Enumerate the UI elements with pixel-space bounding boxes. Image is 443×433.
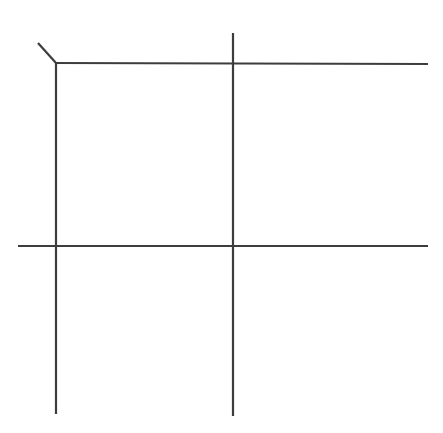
drawing-canvas bbox=[0, 0, 443, 433]
grid-crosshatch-figure bbox=[0, 0, 443, 433]
top-horizontal-line bbox=[55, 63, 428, 64]
